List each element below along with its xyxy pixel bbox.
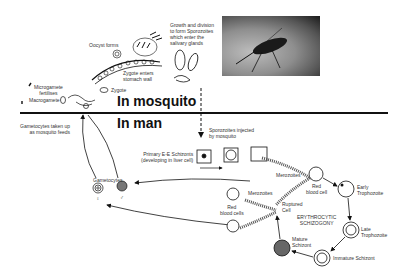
- male-symbol: ♂: [120, 194, 124, 200]
- early-trophozoite-label: Early Trophozoite: [357, 184, 383, 196]
- immature-schizont-label: Immature Schizont: [333, 255, 375, 261]
- erythrocytic-schizogony-label: ERYTHROCYTIC SCHIZOGONY: [297, 214, 336, 226]
- primary-ee-schizonts-label: Primary E-E Schizonts (developing in liv…: [141, 151, 193, 163]
- merozoites-top-label: Merozoites: [276, 172, 300, 178]
- red-blood-cell-label: Red blood cell: [306, 183, 327, 195]
- red-blood-cells-label: Red blood cells: [220, 204, 244, 216]
- female-symbol: ♀: [96, 195, 100, 201]
- mature-schizont-label: Mature Schizont: [292, 236, 311, 248]
- macrogamete-label: Macrogamete: [29, 97, 60, 103]
- zygote-enters-label: Zygote enters stomach wall: [123, 70, 154, 82]
- merozoites-left-label: Merozoites: [248, 190, 272, 196]
- zygote-label: Zygote: [111, 87, 126, 93]
- late-trophozoite-label: Late Trophozoite: [361, 226, 387, 238]
- oocyst-forms-label: Oocyst forms: [89, 42, 118, 48]
- sporozoites-injected-label: Sporozoites injected by mosquito: [209, 127, 254, 139]
- gametocytes-taken-up-label: Gametocytes taken up as mosquito feeds: [20, 123, 70, 135]
- microgamete-label: Microgamete fertilises: [34, 84, 63, 96]
- region-man-label: In man: [117, 115, 162, 131]
- gametocytes-label: Gametocytes: [93, 177, 122, 183]
- ruptured-cell-label: Ruptured Cell: [282, 201, 303, 213]
- growth-division-label: Growth and division to form Sporozoites …: [170, 22, 214, 46]
- region-mosquito-label: In mosquito: [117, 93, 196, 109]
